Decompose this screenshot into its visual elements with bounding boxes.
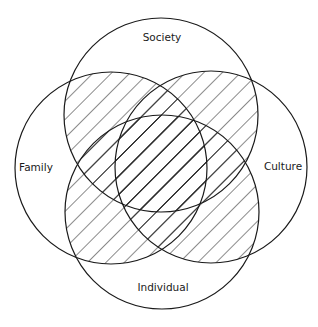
label-society: Society [143, 31, 182, 43]
label-culture: Culture [264, 160, 302, 172]
hatched-overlaps [15, 71, 307, 309]
venn-diagram: Society Family Culture Individual [0, 0, 318, 327]
label-individual: Individual [137, 281, 188, 293]
label-family: Family [19, 161, 53, 173]
